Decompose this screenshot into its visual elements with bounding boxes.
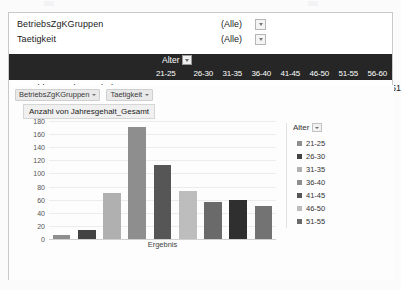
pivot-report-card: BetriebsZgKGruppen (Alle) Taetigkeit (Al… <box>8 12 393 280</box>
chart-field-label: BetriebsZgKGruppen <box>19 91 89 99</box>
chart-bar[interactable] <box>179 191 197 239</box>
legend-swatch <box>297 154 302 159</box>
legend-item[interactable]: 41-45 <box>293 189 348 202</box>
bar-slot <box>150 121 175 239</box>
legend-label: 21-25 <box>306 140 325 148</box>
bar-slot <box>99 121 124 239</box>
column-header: 21-25 <box>154 70 185 78</box>
pivot-chart-panel: BetriebsZgKGruppen Taetigkeit Anzahl von… <box>9 85 394 280</box>
chart-bar[interactable] <box>53 235 71 239</box>
chart-plot-area: 180160140120100806040200 Ergebnis <box>21 121 276 251</box>
y-axis-tick: 100 <box>33 170 45 177</box>
legend-item[interactable]: 51-55 <box>293 215 348 228</box>
legend-swatch <box>297 206 302 211</box>
legend-item[interactable]: 46-50 <box>293 202 348 215</box>
chevron-down-icon[interactable] <box>255 19 266 30</box>
chart-field-buttons: BetriebsZgKGruppen Taetigkeit <box>15 89 153 101</box>
column-header: 61-65 <box>388 70 406 78</box>
column-header: 51-55 <box>330 70 359 78</box>
chart-field-button-taetigkeit[interactable]: Taetigkeit <box>106 89 153 101</box>
legend-label: 31-35 <box>306 166 325 174</box>
legend-swatch <box>297 167 302 172</box>
y-axis-tick: 40 <box>37 209 45 216</box>
chart-bar[interactable] <box>229 200 247 239</box>
legend-label: 36-40 <box>306 179 325 187</box>
y-axis-tick: 60 <box>37 196 45 203</box>
chart-bars <box>49 121 276 239</box>
column-field-alter[interactable]: Alter <box>162 55 192 65</box>
bar-slot <box>49 121 74 239</box>
legend-item[interactable]: 26-30 <box>293 150 348 163</box>
column-header: 31-35 <box>214 70 243 78</box>
legend-label: 26-30 <box>306 153 325 161</box>
bar-slot <box>175 121 200 239</box>
filter-label: Taetigkeit <box>17 35 56 44</box>
chart-bar[interactable] <box>255 206 273 239</box>
column-header: 26-30 <box>185 70 214 78</box>
chart-field-button-betriebszgkgruppen[interactable]: BetriebsZgKGruppen <box>15 89 100 101</box>
chevron-down-icon[interactable] <box>182 55 192 65</box>
legend-item[interactable]: 36-40 <box>293 176 348 189</box>
chart-bar[interactable] <box>204 202 222 239</box>
legend-label: 51-55 <box>306 218 325 226</box>
bar-slot <box>125 121 150 239</box>
chart-bar[interactable] <box>128 127 146 239</box>
filter-row-betriebszgkgruppen[interactable]: BetriebsZgKGruppen (Alle) <box>9 17 392 32</box>
legend-swatch <box>297 219 302 224</box>
bar-slot <box>200 121 225 239</box>
legend-items: 21-2526-3031-3536-4041-4546-5051-55 <box>293 137 348 228</box>
y-axis-tick: 0 <box>41 236 45 243</box>
legend-swatch <box>297 180 302 185</box>
chevron-down-icon[interactable] <box>312 123 322 132</box>
column-header: 56-60 <box>359 70 388 78</box>
filter-value: (Alle) <box>221 20 242 29</box>
legend-label: 41-45 <box>306 192 325 200</box>
y-axis-tick: 160 <box>33 131 45 138</box>
legend-title: Alter <box>293 124 309 132</box>
chart-bar[interactable] <box>154 165 172 239</box>
legend-item[interactable]: 31-35 <box>293 163 348 176</box>
bar-slot <box>226 121 251 239</box>
y-axis: 180160140120100806040200 <box>21 121 47 239</box>
bar-slot <box>74 121 99 239</box>
filter-label: BetriebsZgKGruppen <box>17 20 103 29</box>
legend-item[interactable]: 21-25 <box>293 137 348 150</box>
chart-bar[interactable] <box>78 230 96 239</box>
bar-slot <box>251 121 276 239</box>
y-axis-tick: 20 <box>37 222 45 229</box>
scan-artifact <box>308 1 318 6</box>
x-axis-label: Ergebnis <box>49 241 276 249</box>
chevron-down-icon[interactable] <box>255 34 266 45</box>
scan-artifact <box>44 1 54 6</box>
y-axis-tick: 180 <box>33 118 45 125</box>
column-header: 46-50 <box>301 70 330 78</box>
chevron-down-icon <box>92 94 96 96</box>
column-field-row: Alter <box>9 54 392 67</box>
y-axis-tick: 120 <box>33 157 45 164</box>
filter-value: (Alle) <box>221 35 242 44</box>
legend-swatch <box>297 141 302 146</box>
pivot-table-header: Alter 21-25 26-30 31-35 36-40 41-45 46-5… <box>9 54 392 80</box>
filter-section: BetriebsZgKGruppen (Alle) Taetigkeit (Al… <box>9 13 392 50</box>
chevron-down-icon <box>145 94 149 96</box>
chart-bar[interactable] <box>103 193 121 239</box>
chart-field-label: Taetigkeit <box>110 91 142 99</box>
y-axis-tick: 80 <box>37 183 45 190</box>
legend-label: 46-50 <box>306 205 325 213</box>
column-header-row: 21-25 26-30 31-35 36-40 41-45 46-50 51-5… <box>9 67 392 80</box>
column-header: 36-40 <box>243 70 272 78</box>
column-field-label: Alter <box>162 56 179 65</box>
column-header: 41-45 <box>272 70 301 78</box>
legend-field-button[interactable]: Alter <box>293 123 348 132</box>
y-axis-tick: 140 <box>33 144 45 151</box>
chart-legend: Alter 21-2526-3031-3536-4041-4546-5051-5… <box>286 123 348 228</box>
filter-row-taetigkeit[interactable]: Taetigkeit (Alle) <box>9 32 392 47</box>
legend-swatch <box>297 193 302 198</box>
